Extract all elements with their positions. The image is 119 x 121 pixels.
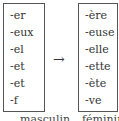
feminine-caption: féminin [82,114,119,121]
masculine-endings-box: -er -eux -el -et -et -f [3,3,45,112]
feminine-ending: -ve [85,95,101,107]
feminine-endings-box: -ère -euse -elle -ette -ète -ve [78,3,118,112]
masculine-ending: -f [10,95,18,107]
masculine-ending: -er [10,10,26,22]
masculine-ending: -el [10,44,24,56]
feminine-ending: -elle [85,44,109,56]
right-arrow-icon: → [53,52,65,66]
feminine-ending: -ette [85,61,111,73]
masculine-caption: masculin [20,114,70,121]
feminine-ending: -ère [85,10,107,22]
masculine-ending: -et [10,61,25,73]
feminine-ending: -euse [85,27,114,39]
masculine-ending: -eux [10,27,34,39]
masculine-ending: -et [10,78,25,90]
feminine-ending: -ète [85,78,106,90]
